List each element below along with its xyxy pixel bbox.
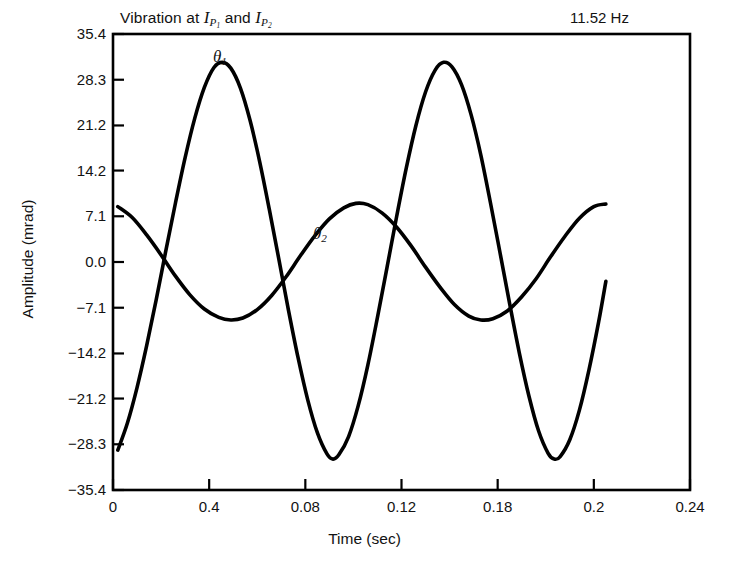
theta-subscript: 2 [321,232,327,244]
y-tick-label-2: 21.2 [44,117,106,132]
chart-figure: Vibration at IP1 and IP2 11.52 Hz Amplit… [0,0,729,570]
curve-label-theta2: θ2 [313,224,327,244]
x-tick-label-2: 0.08 [270,498,340,515]
y-tick-label-0: 35.4 [44,26,106,41]
chart-title-var1: IP1 [204,8,221,27]
plot-area [0,0,729,570]
chart-title-sub2-index: 2 [268,21,272,30]
x-tick-label-3: 0.12 [367,498,437,515]
chart-title-prefix: Vibration at [120,9,204,26]
x-tick-label-6: 0.24 [655,498,725,515]
chart-title-sub1: P1 [210,16,221,28]
frequency-annotation: 11.52 Hz [570,9,629,26]
y-tick-label-1: 28.3 [44,72,106,87]
chart-title-var2: IP2 [255,8,272,27]
chart-title-sub2: P2 [261,16,272,28]
x-tick-label-4: 0.18 [463,498,533,515]
y-tick-label-group: 35.428.321.214.27.10.0−7.1−14.2−21.2−28.… [44,0,106,570]
chart-title: Vibration at IP1 and IP2 [120,8,272,30]
y-tick-label-7: −14.2 [44,345,106,360]
curve-theta1 [118,62,606,459]
x-tick-label-1: 0.4 [174,498,244,515]
data-curves [118,62,606,459]
y-tick-label-9: −28.3 [44,436,106,451]
x-tick-label-0: 0 [78,498,148,515]
x-axis-title: Time (sec) [0,530,729,548]
chart-title-conjunction: and [220,9,255,26]
curve-label-theta1: θ1 [213,47,227,67]
y-axis-title: Amplitude (mrad) [19,149,37,369]
curve-theta2 [118,203,606,320]
y-tick-label-10: −35.4 [44,482,106,497]
y-tick-label-5: 0.0 [44,254,106,269]
y-tick-label-4: 7.1 [44,208,106,223]
y-tick-label-6: −7.1 [44,300,106,315]
y-tick-label-8: −21.2 [44,391,106,406]
theta-subscript: 1 [221,55,227,67]
y-tick-label-3: 14.2 [44,163,106,178]
x-tick-label-5: 0.2 [559,498,629,515]
